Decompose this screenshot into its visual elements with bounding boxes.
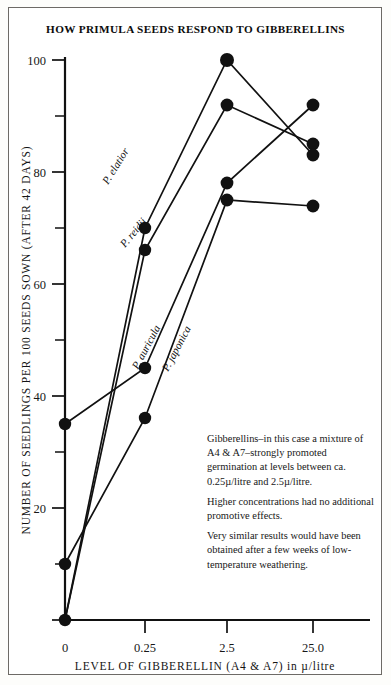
data-point [307, 99, 320, 112]
y-tick-label-40: 40 [34, 390, 47, 404]
x-tick-label-0-25: 0.25 [134, 641, 156, 655]
y-tick-label-100: 100 [27, 54, 46, 68]
y-tick-label-60: 60 [34, 278, 47, 292]
chart-figure: HOW PRIMULA SEEDS RESPOND TO GIBBERELLIN… [0, 0, 391, 685]
annotation-paragraph-3: Very similar results would have been obt… [207, 529, 375, 572]
annotation-note: Gibberellins–in this case a mixture of A… [207, 432, 375, 572]
x-axis-title: LEVEL OF GIBBERELLIN (A4 & A7) in µ/litr… [75, 660, 335, 673]
series-label-japonica: P. japonica [159, 323, 193, 373]
x-tick-label-25-0: 25.0 [302, 641, 324, 655]
data-point [221, 177, 234, 190]
data-point [220, 53, 234, 67]
y-axis-minor-ticks [55, 116, 65, 564]
data-point [59, 614, 71, 626]
data-point [139, 244, 151, 256]
series-line-auricula [65, 105, 313, 424]
annotation-paragraph-1: Gibberellins–in this case a mixture of A… [207, 432, 375, 489]
data-point [59, 558, 71, 570]
data-point [307, 149, 320, 162]
chart-plot-area: 100 80 60 40 20 0 0.25 2.5 25.0 LEVEL OF… [0, 0, 391, 685]
series-label-elatior: P. elatior [99, 145, 131, 187]
y-axis-title: NUMBER OF SEEDLINGS PER 100 SEEDS SOWN (… [20, 146, 33, 535]
annotation-paragraph-2: Higher concentrations had no additional … [207, 495, 375, 523]
x-tick-label-0: 0 [62, 641, 68, 655]
data-point [307, 200, 320, 213]
x-axis-ticks [145, 620, 313, 633]
data-point [307, 138, 320, 151]
data-point [139, 412, 151, 424]
data-point [221, 194, 234, 207]
y-tick-label-20: 20 [34, 502, 47, 516]
y-tick-label-80: 80 [34, 166, 47, 180]
data-point [59, 418, 71, 430]
x-tick-label-2-5: 2.5 [219, 641, 235, 655]
data-point [221, 99, 234, 112]
